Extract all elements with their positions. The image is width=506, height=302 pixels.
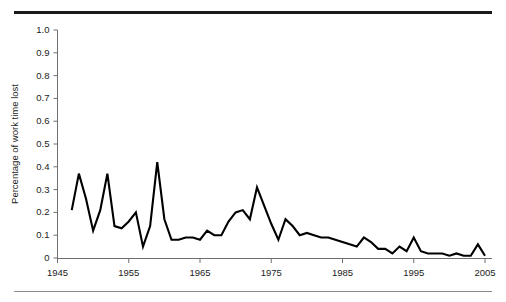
y-axis-tick-labels: 00.10.20.30.40.50.60.70.80.91.0 [36, 24, 49, 263]
y-tick-label-0.1: 0.1 [36, 229, 49, 240]
x-tick-label-1955: 1955 [118, 267, 139, 278]
y-tick-label-0.5: 0.5 [36, 138, 49, 149]
figure-container: 00.10.20.30.40.50.60.70.80.91.0 19451955… [0, 0, 506, 302]
y-axis-ticks [54, 30, 58, 258]
line-chart: 00.10.20.30.40.50.60.70.80.91.0 19451955… [0, 0, 506, 302]
x-axis-tick-labels: 1945195519651975198519952005 [47, 267, 496, 278]
x-tick-label-1945: 1945 [47, 267, 68, 278]
data-series-group [72, 162, 485, 255]
y-tick-label-0.6: 0.6 [36, 115, 49, 126]
y-tick-label-0.2: 0.2 [36, 206, 49, 217]
y-tick-label-0: 0 [44, 252, 49, 263]
y-axis: 00.10.20.30.40.50.60.70.80.91.0 [36, 24, 57, 263]
y-tick-label-0.4: 0.4 [36, 161, 49, 172]
y-tick-label-0.3: 0.3 [36, 184, 49, 195]
x-tick-label-1985: 1985 [332, 267, 353, 278]
y-tick-label-0.8: 0.8 [36, 70, 49, 81]
x-axis: 1945195519651975198519952005 [47, 258, 496, 278]
y-tick-label-0.9: 0.9 [36, 47, 49, 58]
x-tick-label-1995: 1995 [403, 267, 424, 278]
x-tick-label-1965: 1965 [189, 267, 210, 278]
x-tick-label-1975: 1975 [261, 267, 282, 278]
series-line-work-time-lost [72, 162, 485, 255]
y-axis-title: Percentage of work time lost [9, 84, 20, 204]
x-tick-label-2005: 2005 [474, 267, 495, 278]
y-tick-label-0.7: 0.7 [36, 92, 49, 103]
y-tick-label-1.0: 1.0 [36, 24, 49, 35]
